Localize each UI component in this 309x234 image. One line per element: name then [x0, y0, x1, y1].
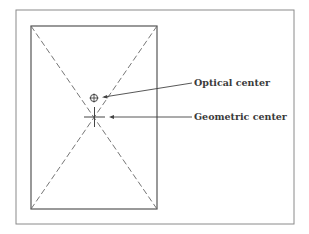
geometric-center-marker — [84, 107, 105, 127]
optical-center-diagram: Optical center Geometric center — [0, 0, 309, 234]
geometric-center-leader — [109, 115, 192, 119]
geometric-center-label: Geometric center — [194, 111, 288, 122]
optical-center-leader — [102, 83, 192, 99]
optical-center-marker — [90, 94, 99, 103]
optical-center-label: Optical center — [194, 77, 271, 88]
